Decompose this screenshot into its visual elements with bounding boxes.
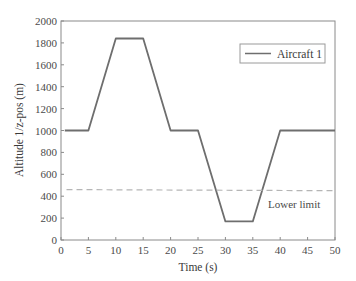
y-tick-label: 1800 xyxy=(35,37,58,49)
y-tick-label: 0 xyxy=(52,234,58,246)
y-tick-label: 600 xyxy=(41,168,58,180)
lower-limit-line xyxy=(67,190,336,191)
x-tick-label: 10 xyxy=(110,244,122,256)
x-tick-label: 30 xyxy=(220,244,232,256)
x-axis-title: Time (s) xyxy=(179,261,218,274)
x-tick-label: 50 xyxy=(330,244,342,256)
x-tick-label: 15 xyxy=(138,244,150,256)
y-axis-title: Altitude 1/z-pos (m) xyxy=(13,83,26,177)
legend-label: Aircraft 1 xyxy=(277,48,322,60)
lower-limit-annotation: Lower limit xyxy=(268,198,320,210)
y-tick-label: 1200 xyxy=(35,103,58,115)
x-tick-label: 45 xyxy=(302,244,314,256)
y-tick-label: 2000 xyxy=(35,15,58,27)
altitude-chart: 05101520253035404550 0200400600800100012… xyxy=(0,0,356,281)
aircraft-1-line xyxy=(65,39,335,222)
series-layer xyxy=(65,39,335,222)
y-tick-label: 800 xyxy=(41,146,58,158)
y-axis-ticks: 0200400600800100012001400160018002000 xyxy=(35,15,64,246)
y-tick-label: 1000 xyxy=(35,125,58,137)
x-tick-label: 25 xyxy=(193,244,205,256)
y-tick-label: 1600 xyxy=(35,59,58,71)
x-tick-label: 35 xyxy=(247,244,259,256)
x-tick-label: 20 xyxy=(165,244,177,256)
legend: Aircraft 1 xyxy=(240,44,325,63)
x-tick-label: 5 xyxy=(86,244,92,256)
x-tick-label: 40 xyxy=(275,244,287,256)
y-tick-label: 1400 xyxy=(35,81,58,93)
y-tick-label: 200 xyxy=(41,212,58,224)
x-tick-label: 0 xyxy=(58,244,64,256)
y-tick-label: 400 xyxy=(41,190,58,202)
